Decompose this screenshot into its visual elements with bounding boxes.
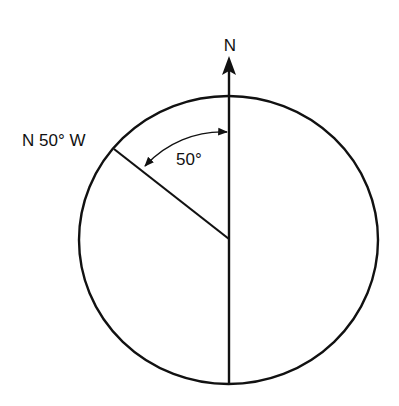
angle-label: 50° bbox=[176, 150, 202, 169]
north-label: N bbox=[224, 36, 236, 55]
bearing-line bbox=[114, 149, 229, 239]
compass-bearing-diagram: N N 50° W 50° bbox=[0, 0, 399, 406]
bearing-label: N 50° W bbox=[22, 131, 85, 150]
